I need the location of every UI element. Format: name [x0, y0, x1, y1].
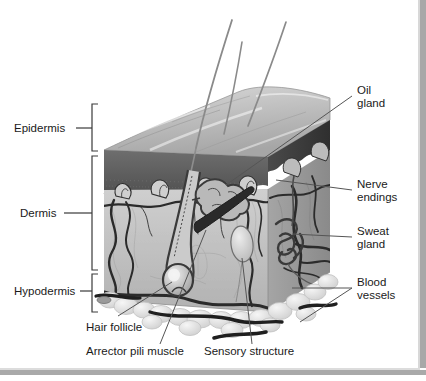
label-hypodermis: Hypodermis — [14, 285, 75, 298]
label-oil-gland-line2: gland — [357, 97, 385, 110]
label-dermis: Dermis — [20, 207, 56, 220]
epidermis-bracket — [92, 104, 98, 151]
label-blood-vessels-line2: vessels — [357, 289, 395, 302]
label-hair-follicle-text: Hair follicle — [86, 321, 142, 333]
page-frame-right — [420, 0, 426, 368]
label-sensory-structure: Sensory structure — [204, 345, 294, 358]
label-sweat-gland-line1: Sweat — [357, 225, 389, 238]
label-arrector-pili-muscle: Arrector pili muscle — [86, 345, 184, 358]
label-epidermis-text: Epidermis — [14, 122, 65, 134]
dermis-bracket — [92, 156, 98, 270]
label-nerve-endings: Nerve endings — [357, 178, 397, 203]
label-oil-gland-line1: Oil — [357, 84, 385, 97]
layer-brackets — [64, 104, 98, 312]
label-blood-vessels: Blood vessels — [357, 276, 395, 301]
figure-page: Epidermis Dermis Hypodermis Oil gland Ne… — [0, 0, 426, 381]
label-sweat-gland-line2: gland — [357, 238, 389, 251]
label-dermis-text: Dermis — [20, 207, 56, 219]
label-epidermis: Epidermis — [14, 122, 65, 135]
page-frame-bottom — [0, 370, 426, 375]
label-nerve-endings-line1: Nerve — [357, 178, 397, 191]
label-hair-follicle: Hair follicle — [86, 321, 142, 334]
label-hypodermis-text: Hypodermis — [14, 285, 75, 297]
label-sweat-gland: Sweat gland — [357, 225, 389, 250]
label-sensory-structure-text: Sensory structure — [204, 345, 294, 357]
hypodermis-bracket — [92, 274, 98, 312]
label-oil-gland: Oil gland — [357, 84, 385, 109]
label-nerve-endings-line2: endings — [357, 191, 397, 204]
label-blood-vessels-line1: Blood — [357, 276, 395, 289]
label-arrector-pili-muscle-text: Arrector pili muscle — [86, 345, 184, 357]
